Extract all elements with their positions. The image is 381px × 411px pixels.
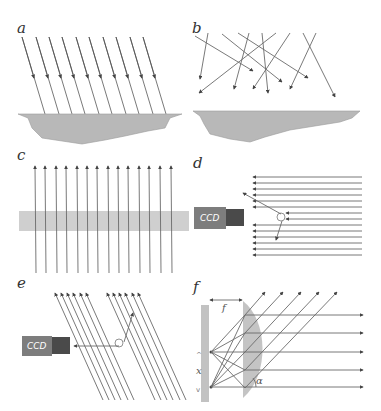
scattering-particle [277,213,285,221]
panel-label-f: f [192,278,201,296]
collimated-rays [22,37,166,114]
rough-surface [18,114,182,144]
focal-label: f [221,302,228,313]
panel-label-b: b [192,19,202,37]
panel-a: a [17,19,182,144]
panel-b: b [192,19,360,142]
optics-figure: a b [0,0,381,411]
scattered-ray [124,313,133,342]
panel-e: e CCD [17,274,186,400]
angle-label: α [256,375,263,386]
source-rays [211,315,245,388]
horizontal-rays [253,177,362,255]
panel-d: d CCD [193,154,362,255]
svg-text:^: ^ [196,351,202,359]
source-screen [201,305,209,402]
panel-label-e: e [17,274,26,292]
scattered-ray [243,193,281,214]
panel-c: c [17,146,189,273]
distance-label: x [196,365,202,376]
ccd-label: CCD [27,341,47,351]
transparent-slab [19,211,189,231]
svg-text:v: v [196,386,200,394]
panel-label-c: c [17,146,26,164]
panel-f: f f x ^ v [192,278,363,402]
panel-label-d: d [193,154,203,172]
ccd-label: CCD [200,213,220,223]
ccd-camera: CCD [22,336,70,356]
panel-label-a: a [17,19,26,37]
ccd-camera: CCD [194,207,244,229]
diffuse-rays [195,33,335,97]
rough-surface [193,111,360,142]
